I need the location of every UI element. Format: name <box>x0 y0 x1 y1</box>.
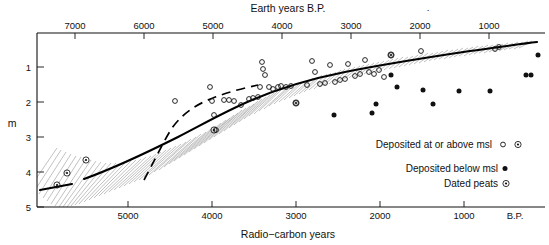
top-tick-label: 5000 <box>202 20 223 31</box>
legend-open-circle-icon <box>501 142 506 147</box>
bottom-tick-label: 2000 <box>369 210 390 221</box>
top-axis-ticks <box>75 33 489 39</box>
top-tick-label: 7000 <box>64 20 85 31</box>
bottom-axis-unit-label: B.P. <box>507 210 524 221</box>
y-tick-label: 4 <box>26 167 31 178</box>
bottom-axis-ticks <box>128 201 464 207</box>
top-tick-label: 6000 <box>133 20 154 31</box>
y-tick-label: 2 <box>26 97 31 108</box>
figure: 7000 6000 5000 4000 3000 2000 1000 Earth… <box>0 0 549 245</box>
legend-label-below-msl: Deposited below msl <box>406 163 498 174</box>
y-tick-label: 1 <box>26 62 31 73</box>
bottom-axis-title: Radio−carbon years <box>241 228 335 240</box>
top-tick-label: 2000 <box>409 20 430 31</box>
sea-level-chart: 7000 6000 5000 4000 3000 2000 1000 Earth… <box>0 0 549 245</box>
series-deposited-below-msl <box>332 53 541 118</box>
bottom-tick-label: 1000 <box>453 210 474 221</box>
y-axis-tick-labels: 1 2 3 4 5 <box>26 62 31 213</box>
y-tick-label: 3 <box>26 132 31 143</box>
top-axis-title: Earth years B.P. <box>250 2 325 14</box>
y-axis-title: m <box>8 117 17 129</box>
legend-dated-peat-icon <box>503 180 509 186</box>
top-axis-tick-labels: 7000 6000 5000 4000 3000 2000 1000 <box>64 20 499 31</box>
legend: Deposited at or above msl Deposited belo… <box>376 139 521 189</box>
top-tick-label: 4000 <box>271 20 292 31</box>
legend-label-dated-peats: Dated peats <box>444 178 498 189</box>
dated-peat-marker <box>83 157 89 163</box>
y-axis-ticks <box>37 67 44 207</box>
y-tick-label: 5 <box>26 202 31 213</box>
bottom-tick-label: 3000 <box>285 210 306 221</box>
legend-circled-dot-icon <box>515 141 521 147</box>
bottom-tick-label: 4000 <box>201 210 222 221</box>
stray-mark: · <box>426 4 429 15</box>
top-tick-label: 3000 <box>340 20 361 31</box>
series-deposited-at-or-above-msl <box>173 45 502 133</box>
top-tick-label: 1000 <box>478 20 499 31</box>
legend-label-at-or-above-msl: Deposited at or above msl <box>376 139 492 150</box>
legend-filled-circle-icon <box>503 166 508 171</box>
bottom-tick-label: 5000 <box>117 210 138 221</box>
bottom-axis-tick-labels: 5000 4000 3000 2000 1000 B.P. <box>117 210 523 221</box>
